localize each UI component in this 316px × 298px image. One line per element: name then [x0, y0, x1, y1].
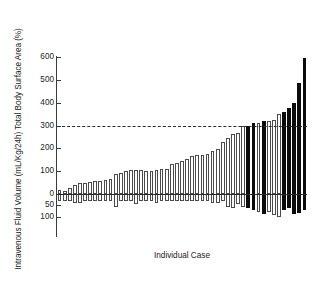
- bar-positive-segment: [267, 121, 271, 194]
- bar-positive-segment: [144, 171, 148, 194]
- bar-positive-segment: [83, 183, 87, 194]
- bar-negative-segment: [134, 194, 138, 204]
- bar-negative-segment: [201, 194, 205, 201]
- bar-negative-segment: [282, 194, 286, 210]
- bar-negative-segment: [221, 194, 225, 201]
- bar-positive-segment: [78, 183, 82, 194]
- threshold-line-300: [57, 126, 307, 127]
- bar-negative-segment: [303, 194, 307, 210]
- bar-positive-segment: [287, 108, 291, 194]
- bar-positive-segment: [216, 149, 220, 194]
- bar-positive-segment: [165, 169, 169, 194]
- bar-negative-segment: [257, 194, 261, 212]
- bar-positive-segment: [88, 182, 92, 194]
- x-axis-title: Individual Case: [57, 251, 307, 260]
- bar-positive-segment: [195, 155, 199, 194]
- y-axis-tick-label: 400: [24, 99, 54, 107]
- chart-figure: Intravenous Fluid Volume (mL/Kg/24h) Tot…: [0, 0, 316, 298]
- bar-negative-segment: [297, 194, 301, 213]
- bar-negative-segment: [211, 194, 215, 203]
- bar-positive-segment: [221, 142, 225, 194]
- bar-negative-segment: [124, 194, 128, 201]
- bar-positive-segment: [109, 179, 113, 194]
- bar-negative-segment: [93, 194, 97, 201]
- bar-positive-segment: [139, 170, 143, 194]
- bar-positive-segment: [104, 180, 108, 194]
- bar-negative-segment: [119, 194, 123, 201]
- bar-positive-segment: [160, 169, 164, 194]
- bar-negative-segment: [272, 194, 276, 215]
- bar-positive-segment: [185, 159, 189, 194]
- bar-negative-segment: [73, 194, 77, 203]
- bar-negative-segment: [165, 194, 169, 201]
- bar-positive-segment: [175, 163, 179, 194]
- y-axis-tick-label: 100: [24, 213, 54, 221]
- bar-negative-segment: [246, 194, 250, 208]
- bar-negative-segment: [63, 194, 67, 201]
- bar-negative-segment: [58, 194, 62, 201]
- bar-positive-segment: [246, 126, 250, 195]
- bar-negative-segment: [114, 194, 118, 207]
- bar-series-container: [57, 52, 307, 234]
- bar-positive-segment: [231, 134, 235, 194]
- bar-positive-segment: [150, 171, 154, 194]
- bar-negative-segment: [68, 194, 72, 201]
- bar-positive-segment: [252, 123, 256, 194]
- y-axis-tick-label: 300: [24, 122, 54, 130]
- bar-positive-segment: [236, 133, 240, 194]
- bar-positive-segment: [292, 103, 296, 194]
- bar-negative-segment: [170, 194, 174, 201]
- bar-positive-segment: [134, 170, 138, 194]
- bar-positive-segment: [170, 164, 174, 194]
- bar-positive-segment: [297, 83, 301, 194]
- bar-negative-segment: [160, 194, 164, 201]
- bar-negative-segment: [180, 194, 184, 201]
- bar-positive-segment: [226, 138, 230, 194]
- bar-negative-segment: [226, 194, 230, 207]
- y-axis-tick-label: 600: [24, 53, 54, 61]
- bar-positive-segment: [257, 123, 261, 194]
- zero-baseline: [57, 194, 307, 195]
- bar-positive-segment: [201, 155, 205, 194]
- bar-negative-segment: [292, 194, 296, 214]
- bar-negative-segment: [236, 194, 240, 204]
- bar-negative-segment: [98, 194, 102, 201]
- bar-positive-segment: [272, 120, 276, 194]
- bar-positive-segment: [282, 112, 286, 194]
- bar-negative-segment: [83, 194, 87, 201]
- bar-positive-segment: [206, 154, 210, 194]
- bar-negative-segment: [216, 194, 220, 203]
- y-axis-tick-label: 50: [24, 201, 54, 209]
- y-axis-tick-label: 100: [24, 167, 54, 175]
- y-axis-tick-label: 0: [24, 190, 54, 198]
- bar-negative-segment: [206, 194, 210, 201]
- y-axis-title-container: Intravenous Fluid Volume (mL/Kg/24h) Tot…: [0, 0, 22, 298]
- bar-negative-segment: [287, 194, 291, 208]
- bar-negative-segment: [195, 194, 199, 201]
- bar-negative-segment: [231, 194, 235, 208]
- bar-negative-segment: [144, 194, 148, 201]
- bar-negative-segment: [267, 194, 271, 212]
- bar-negative-segment: [129, 194, 133, 201]
- bar-negative-segment: [155, 194, 159, 203]
- bar-negative-segment: [190, 194, 194, 201]
- bar-negative-segment: [150, 194, 154, 201]
- bar-positive-segment: [93, 181, 97, 194]
- bar-positive-segment: [155, 170, 159, 194]
- bar-negative-segment: [104, 194, 108, 201]
- y-axis-ticks: 600500400300200100050100: [20, 0, 54, 298]
- bar-negative-segment: [262, 194, 266, 214]
- bar-positive-segment: [190, 156, 194, 194]
- bar-negative-segment: [109, 194, 113, 201]
- bar-positive-segment: [98, 181, 102, 194]
- bar-negative-segment: [175, 194, 179, 201]
- bar-positive-segment: [119, 173, 123, 194]
- y-axis-tick-label: 500: [24, 76, 54, 84]
- bar-negative-segment: [277, 194, 281, 217]
- bar-positive-segment: [114, 174, 118, 194]
- bar-positive-segment: [211, 151, 215, 194]
- bar-positive-segment: [241, 126, 245, 194]
- bar-negative-segment: [185, 194, 189, 201]
- bar-negative-segment: [78, 194, 82, 203]
- y-axis-tick-label: 200: [24, 144, 54, 152]
